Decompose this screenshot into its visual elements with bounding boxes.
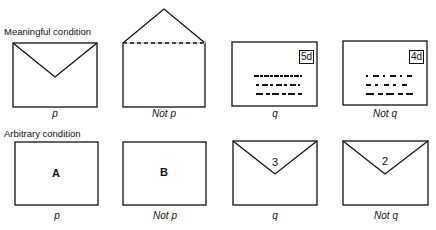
label-not-p: Not p: [119, 108, 209, 119]
number-2: 2: [382, 155, 388, 167]
stamp-5d: 5d: [299, 50, 314, 64]
label-q-arbitrary: q: [230, 210, 320, 221]
label-not-q-arbitrary: Not q: [341, 210, 431, 221]
label-p-arbitrary: p: [12, 210, 102, 221]
label-q: q: [230, 108, 320, 119]
stamp-4d: 4d: [409, 50, 424, 64]
label-not-q: Not q: [340, 108, 430, 119]
number-3: 3: [272, 156, 278, 168]
envelope-not-p-open: [123, 43, 205, 107]
letter-A: A: [52, 167, 60, 179]
label-p: p: [10, 108, 100, 119]
label-not-p-arbitrary: Not p: [120, 210, 210, 221]
letter-B: B: [160, 166, 168, 178]
